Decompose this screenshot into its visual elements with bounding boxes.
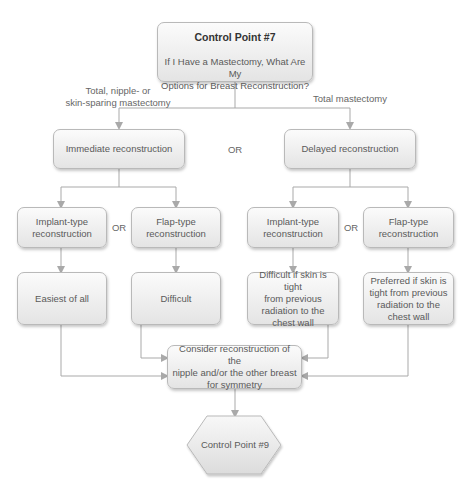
- right-implant-type-box: Implant-type reconstruction: [247, 207, 339, 248]
- right-flap-note-line4: chest wall: [388, 311, 430, 323]
- merge-line1: Consider reconstruction of the: [172, 343, 297, 367]
- right-flap-type-box: Flap-type reconstruction: [363, 207, 454, 248]
- merge-line3: for symmetry: [207, 379, 262, 391]
- branch-label-right: Total mastectomy: [300, 93, 400, 105]
- right-implant-line1: Implant-type: [267, 216, 319, 228]
- merge-line2: nipple and/or the other breast: [172, 367, 296, 379]
- left-implant-line2: reconstruction: [32, 228, 92, 240]
- right-flap-note-line2: tight from previous: [369, 287, 447, 299]
- branch-label-left-line1: Total, nipple- or: [62, 85, 174, 97]
- branch-label-left-line2: skin-sparing mastectomy: [62, 97, 174, 109]
- left-flap-line2: reconstruction: [146, 228, 206, 240]
- left-implant-line1: Implant-type: [36, 216, 88, 228]
- preferred-if-skin-tight-box: Preferred if skin is tight from previous…: [363, 272, 454, 325]
- right-implant-note-line4: chest wall: [272, 317, 314, 329]
- or-label-level2: OR: [222, 144, 248, 156]
- difficult-if-skin-tight-box: Difficult if skin is tight from previous…: [247, 272, 339, 325]
- easiest-of-all-box: Easiest of all: [17, 272, 107, 325]
- right-flap-note-line3: radiation to the: [377, 299, 440, 311]
- or-label-left: OR: [108, 222, 130, 234]
- control-point-7-box: Control Point #7 If I Have a Mastectomy,…: [157, 22, 313, 82]
- question-line-2: Options for Breast Reconstruction?: [161, 80, 309, 92]
- consider-reconstruction-box: Consider reconstruction of the nipple an…: [167, 345, 302, 389]
- right-implant-line2: reconstruction: [263, 228, 323, 240]
- right-flap-line2: reconstruction: [379, 228, 439, 240]
- immediate-reconstruction-label: Immediate reconstruction: [66, 143, 173, 155]
- easiest-of-all-label: Easiest of all: [35, 293, 89, 305]
- control-point-9-label: Control Point #9: [187, 439, 283, 450]
- right-flap-line1: Flap-type: [389, 216, 429, 228]
- right-implant-note-line2: from previous: [264, 293, 322, 305]
- difficult-box: Difficult: [131, 272, 221, 325]
- control-point-7-title: Control Point #7: [194, 31, 275, 43]
- delayed-reconstruction-box: Delayed reconstruction: [284, 129, 416, 169]
- right-implant-note-line1: Difficult if skin is tight: [252, 269, 334, 293]
- left-flap-type-box: Flap-type reconstruction: [131, 207, 221, 248]
- immediate-reconstruction-box: Immediate reconstruction: [53, 129, 185, 169]
- difficult-label: Difficult: [161, 293, 192, 305]
- right-implant-note-line3: radiation to the: [262, 305, 325, 317]
- or-label-right: OR: [340, 222, 362, 234]
- question-line-1: If I Have a Mastectomy, What Are My: [158, 56, 312, 80]
- left-implant-type-box: Implant-type reconstruction: [17, 207, 107, 248]
- branch-label-left: Total, nipple- or skin-sparing mastectom…: [62, 85, 174, 109]
- right-flap-note-line1: Preferred if skin is: [370, 275, 446, 287]
- delayed-reconstruction-label: Delayed reconstruction: [301, 143, 398, 155]
- left-flap-line1: Flap-type: [156, 216, 196, 228]
